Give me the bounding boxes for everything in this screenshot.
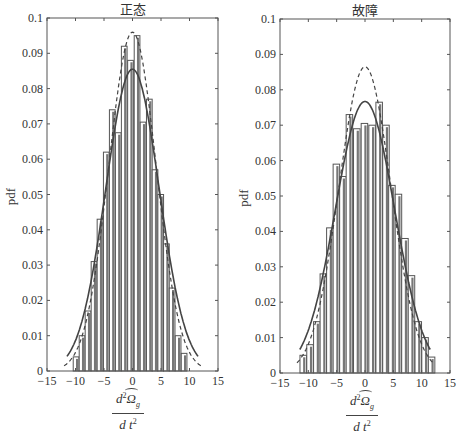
x-tick-label: −5 bbox=[330, 376, 343, 390]
x-label-numerator: d2Ωg bbox=[112, 388, 144, 414]
x-axis-label-fault: d2Ωg d t2 bbox=[346, 390, 378, 434]
y-tick-label: 0.08 bbox=[255, 83, 276, 97]
x-label-denominator: d t2 bbox=[112, 414, 144, 433]
x-tick-label: 10 bbox=[416, 376, 428, 390]
x-label-numerator: d2Ωg bbox=[346, 390, 378, 416]
x-tick-label: −10 bbox=[299, 376, 318, 390]
x-tick-label: 5 bbox=[158, 374, 164, 388]
y-tick-label: 0.1 bbox=[28, 11, 43, 25]
x-label-denominator: d t2 bbox=[346, 416, 378, 434]
y-tick-label: 0.02 bbox=[22, 293, 43, 307]
y-tick-label: 0.08 bbox=[22, 82, 43, 96]
y-tick-label: 0.04 bbox=[22, 223, 43, 237]
x-tick-label: 0 bbox=[362, 376, 368, 390]
y-tick-label: 0.03 bbox=[22, 258, 43, 272]
histogram-bars bbox=[300, 102, 435, 373]
chart-title: 故障 bbox=[352, 3, 378, 18]
x-tick-label: −5 bbox=[98, 374, 111, 388]
x-tick-label: 5 bbox=[390, 376, 396, 390]
chart-title: 正态 bbox=[120, 2, 146, 17]
y-tick-label: 0.06 bbox=[22, 152, 43, 166]
y-tick-label: 0.06 bbox=[255, 154, 276, 168]
x-axis-label-normal: d2Ωg d t2 bbox=[112, 388, 144, 433]
x-tick-label: 0 bbox=[130, 374, 136, 388]
y-tick-label: 0.01 bbox=[255, 331, 276, 345]
y-tick-label: 0.07 bbox=[255, 118, 276, 132]
y-tick-label: 0.05 bbox=[255, 189, 276, 203]
y-axis-label: pdf bbox=[3, 187, 18, 205]
y-tick-label: 0.09 bbox=[255, 47, 276, 61]
x-tick-label: 10 bbox=[184, 374, 196, 388]
y-tick-label: 0.04 bbox=[255, 224, 276, 238]
x-tick-label: 15 bbox=[444, 376, 456, 390]
histogram-bars bbox=[73, 36, 187, 371]
y-axis-label: pdf bbox=[236, 189, 251, 207]
y-tick-label: 0.01 bbox=[22, 329, 43, 343]
y-tick-label: 0.07 bbox=[22, 117, 43, 131]
chart-panel-fault: 00.010.020.030.040.050.060.070.080.090.1… bbox=[236, 3, 456, 390]
chart-panel-normal: 00.010.020.030.040.050.060.070.080.090.1… bbox=[3, 2, 224, 388]
y-tick-label: 0.1 bbox=[261, 12, 276, 26]
y-tick-label: 0.03 bbox=[255, 260, 276, 274]
y-tick-label: 0.02 bbox=[255, 295, 276, 309]
y-tick-label: 0.05 bbox=[22, 188, 43, 202]
x-tick-label: −15 bbox=[38, 374, 57, 388]
x-tick-label: −10 bbox=[66, 374, 85, 388]
x-tick-label: 15 bbox=[212, 374, 224, 388]
y-tick-label: 0.09 bbox=[22, 46, 43, 60]
figure: 00.010.020.030.040.050.060.070.080.090.1… bbox=[0, 0, 464, 434]
x-tick-label: −15 bbox=[271, 376, 290, 390]
